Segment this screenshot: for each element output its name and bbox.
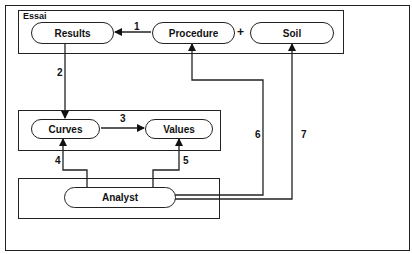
- plus-operator: +: [237, 26, 244, 38]
- node-soil: Soil: [250, 22, 334, 44]
- edge-label-5: 5: [183, 156, 189, 166]
- node-analyst: Analyst: [64, 187, 176, 208]
- node-curves: Curves: [31, 119, 100, 139]
- node-results: Results: [31, 22, 114, 44]
- flow-diagram: Essai Results Procedure + Soil C: [0, 0, 412, 254]
- node-procedure: Procedure: [152, 22, 235, 44]
- edge-label-6: 6: [255, 130, 261, 140]
- edge-5: [153, 139, 179, 187]
- edge-label-4: 4: [55, 156, 61, 166]
- edge-label-3: 3: [120, 114, 126, 124]
- edge-label-7: 7: [301, 130, 307, 140]
- edge-4: [63, 139, 87, 187]
- edge-label-1: 1: [134, 22, 140, 32]
- edge-label-2: 2: [57, 68, 63, 78]
- node-values: Values: [145, 119, 213, 139]
